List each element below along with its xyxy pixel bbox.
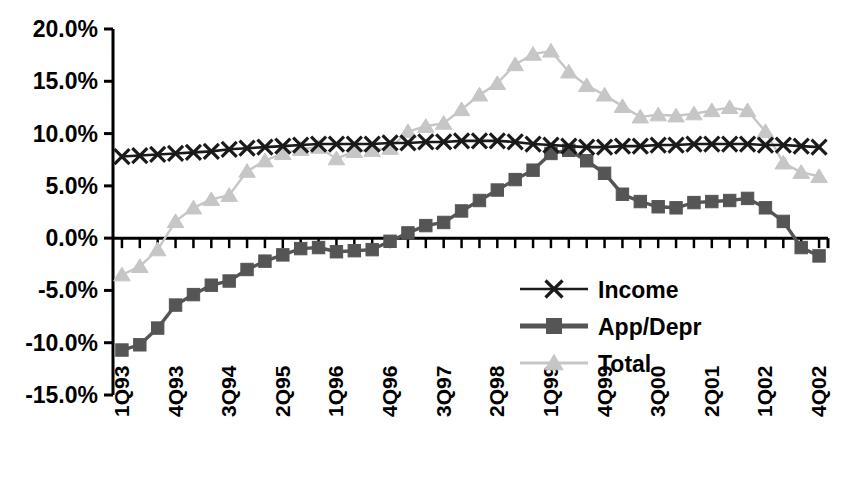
data-point	[741, 192, 753, 204]
data-point	[616, 188, 628, 200]
data-point	[793, 165, 810, 179]
data-point	[491, 184, 503, 196]
legend-label: App/Depr	[598, 314, 702, 340]
chart-container: 20.0%15.0%10.0%5.0%0.0%-5.0%-10.0%-15.0%…	[0, 0, 842, 497]
y-axis-tick-label: 5.0%	[46, 173, 98, 199]
data-point	[759, 202, 771, 214]
data-point	[187, 288, 199, 300]
line-chart: 20.0%15.0%10.0%5.0%0.0%-5.0%-10.0%-15.0%…	[0, 0, 842, 497]
legend-marker	[547, 319, 562, 334]
data-point	[527, 164, 539, 176]
data-point	[420, 219, 432, 231]
x-axis-tick-label: 4Q93	[164, 366, 187, 417]
series-income	[114, 133, 826, 164]
y-axis-tick-label: -15.0%	[25, 382, 98, 408]
data-point	[471, 87, 488, 101]
data-point	[277, 249, 289, 261]
series-line	[122, 51, 819, 275]
data-point	[223, 275, 235, 287]
data-point	[402, 227, 414, 239]
x-axis-tick-label: 1Q93	[110, 366, 133, 417]
x-axis-tick-label: 2Q01	[700, 365, 723, 417]
data-point	[813, 250, 825, 262]
x-axis-tick-label: 1Q99	[539, 366, 562, 417]
data-point	[455, 205, 467, 217]
x-axis-tick-label: 4Q02	[807, 366, 830, 417]
data-point	[507, 57, 524, 71]
x-axis-tick-label: 3Q97	[432, 366, 455, 417]
data-point	[688, 196, 700, 208]
legend-label: Total	[598, 351, 651, 377]
data-point	[598, 167, 610, 179]
y-axis-tick-label: -5.0%	[38, 277, 98, 303]
data-point	[634, 195, 646, 207]
data-point	[151, 322, 163, 334]
x-axis-tick-label: 1Q02	[753, 366, 776, 417]
data-point	[221, 188, 238, 202]
data-point	[185, 200, 202, 214]
data-point	[312, 241, 324, 253]
series-line	[122, 150, 819, 350]
data-point	[330, 246, 342, 258]
y-axis-tick-label: 0.0%	[46, 225, 98, 251]
x-axis-tick-label: 2Q98	[485, 365, 508, 417]
data-point	[114, 267, 131, 281]
data-point	[596, 87, 613, 101]
data-point	[580, 155, 592, 167]
legend-label: Income	[598, 277, 679, 303]
data-point	[437, 216, 449, 228]
y-axis-tick-label: -10.0%	[25, 330, 98, 356]
data-point	[775, 155, 792, 169]
data-point	[328, 151, 345, 165]
legend-item[interactable]: App/Depr	[520, 314, 702, 340]
chart-legend: IncomeApp/DeprTotal	[520, 277, 702, 377]
data-point	[723, 194, 735, 206]
data-point	[384, 235, 396, 247]
data-point	[294, 242, 306, 254]
x-axis-tick-label: 4Q96	[378, 366, 401, 417]
series-total	[114, 43, 828, 280]
series-app-depr	[116, 144, 826, 356]
data-point	[205, 279, 217, 291]
data-point	[795, 241, 807, 253]
data-point	[259, 255, 271, 267]
data-point	[721, 100, 738, 114]
x-axis-tick-label: 3Q94	[217, 365, 240, 417]
y-axis-tick-label: 15.0%	[33, 68, 98, 94]
data-point	[473, 194, 485, 206]
data-point	[241, 263, 253, 275]
data-point	[149, 242, 166, 256]
data-point	[614, 99, 631, 113]
data-point	[239, 164, 256, 178]
x-axis-tick-label: 2Q95	[271, 365, 294, 417]
y-axis-tick-label: 10.0%	[33, 121, 98, 147]
data-point	[348, 244, 360, 256]
data-point	[134, 339, 146, 351]
data-point	[543, 43, 560, 57]
data-point	[257, 153, 274, 167]
y-axis-tick-label: 20.0%	[33, 16, 98, 42]
data-point	[652, 201, 664, 213]
data-point	[670, 202, 682, 214]
x-axis-tick-label: 1Q96	[324, 366, 347, 417]
data-point	[116, 344, 128, 356]
legend-item[interactable]: Income	[520, 277, 679, 303]
data-point	[169, 299, 181, 311]
data-point	[706, 195, 718, 207]
data-point	[509, 173, 521, 185]
data-point	[366, 243, 378, 255]
data-point	[777, 215, 789, 227]
